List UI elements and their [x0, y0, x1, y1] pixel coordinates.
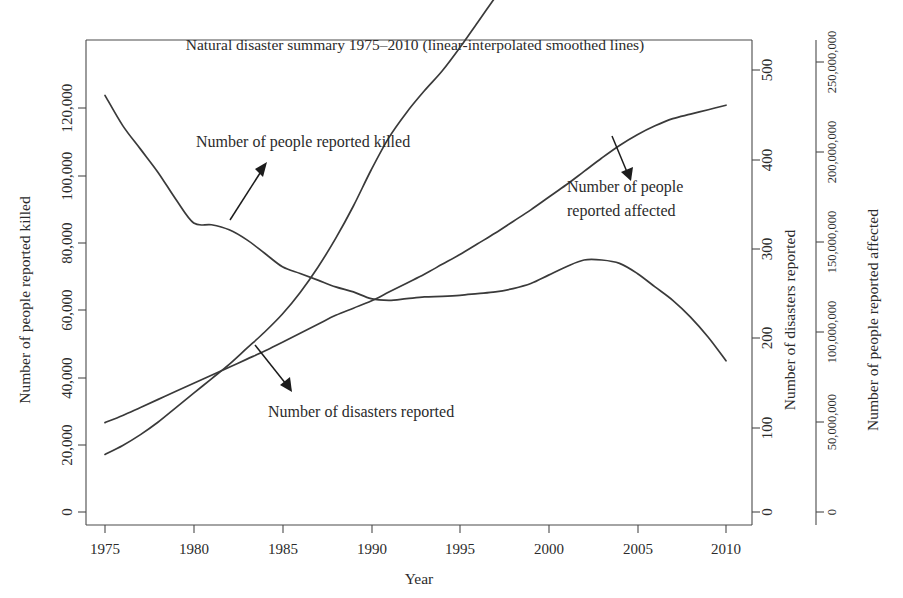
right-outer-axis-ticks	[816, 62, 824, 512]
x-tick-label-1975: 1975	[90, 541, 120, 557]
annotation-label-disasters: Number of disasters reported	[268, 403, 454, 421]
series-line-disasters	[105, 105, 726, 422]
series-paths	[105, 0, 726, 454]
affected-tick-label-100m: 100,000,000	[825, 301, 839, 364]
plot-frame	[86, 40, 816, 525]
affected-tick-label-250m: 250,000,000	[825, 31, 839, 94]
left-axis-ticks	[78, 108, 86, 512]
chart-title: Natural disaster summary 1975–2010 (line…	[186, 36, 645, 54]
x-tick-label-1985: 1985	[268, 541, 298, 557]
left-tick-label-20000: 20,000	[59, 424, 75, 465]
disasters-tick-label-300: 300	[759, 238, 775, 261]
left-axis-title: Number of people reported killed	[16, 196, 33, 404]
annotation-label-affected-line2: reported affected	[567, 202, 676, 220]
left-tick-label-80000: 80,000	[59, 222, 75, 263]
annotation-label-killed: Number of people reported killed	[196, 133, 410, 151]
x-axis-ticks	[105, 525, 726, 533]
left-tick-label-40000: 40,000	[59, 357, 75, 398]
left-tick-label-120000: 120,000	[59, 84, 75, 133]
disasters-tick-label-0: 0	[759, 508, 775, 516]
right-outer-axis-title: Number of people reported affected	[864, 209, 881, 431]
figure-container: 0 20,000 40,000 60,000 80,000 100,000 12…	[0, 0, 903, 598]
right-inner-axis-tick-labels: 0 100 200 300 400 500	[759, 59, 775, 516]
annotation-disasters: Number of disasters reported	[255, 345, 454, 421]
x-tick-label-2005: 2005	[623, 541, 653, 557]
left-tick-label-0: 0	[59, 508, 75, 516]
right-inner-axis-ticks	[752, 70, 760, 512]
natural-disaster-line-chart: 0 20,000 40,000 60,000 80,000 100,000 12…	[0, 0, 903, 598]
annotation-leader-killed	[230, 170, 262, 220]
affected-tick-label-200m: 200,000,000	[825, 121, 839, 184]
x-tick-label-2000: 2000	[534, 541, 564, 557]
disasters-tick-label-100: 100	[759, 417, 775, 440]
left-axis-tick-labels: 0 20,000 40,000 60,000 80,000 100,000 12…	[59, 84, 75, 516]
right-outer-axis-tick-labels: 0 50,000,000 100,000,000 150,000,000 200…	[825, 31, 839, 515]
annotation-leader-disasters	[255, 345, 286, 384]
x-tick-label-1990: 1990	[357, 541, 387, 557]
annotation-label-affected-line1: Number of people	[567, 178, 683, 196]
x-tick-label-2010: 2010	[711, 541, 741, 557]
annotation-killed: Number of people reported killed	[196, 133, 410, 220]
right-inner-axis-title: Number of disasters reported	[781, 230, 798, 411]
left-tick-label-60000: 60,000	[59, 289, 75, 330]
disasters-tick-label-500: 500	[759, 59, 775, 82]
x-axis-tick-labels: 1975 1980 1985 1990 1995 2000 2005 2010	[90, 541, 741, 557]
x-tick-label-1995: 1995	[445, 541, 475, 557]
affected-tick-label-50m: 50,000,000	[825, 394, 839, 450]
affected-tick-label-0: 0	[825, 509, 839, 515]
series-line-affected	[105, 0, 726, 454]
annotation-affected: Number of people reported affected	[567, 136, 683, 220]
x-tick-label-1980: 1980	[179, 541, 209, 557]
disasters-tick-label-200: 200	[759, 327, 775, 350]
x-axis-title: Year	[405, 570, 434, 587]
disasters-tick-label-400: 400	[759, 149, 775, 172]
arrow-head-killed-icon	[255, 162, 267, 177]
affected-tick-label-150m: 150,000,000	[825, 211, 839, 274]
left-tick-label-100000: 100,000	[59, 152, 75, 201]
